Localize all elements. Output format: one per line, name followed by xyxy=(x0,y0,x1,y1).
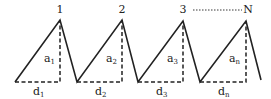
height-label-n: an xyxy=(229,52,241,66)
height-label-2: a2 xyxy=(106,52,117,66)
sawtooth-line xyxy=(15,20,261,82)
peak-label-1: 1 xyxy=(57,3,64,16)
base-label-3: d3 xyxy=(156,85,168,99)
peak-label-n: N xyxy=(243,3,253,16)
peak-label-3: 3 xyxy=(180,3,187,16)
base-label-1: d1 xyxy=(33,85,45,99)
sawtooth-diagram: 1 2 3 N a1 a2 a3 an d1 d2 d3 dn xyxy=(0,0,271,99)
base-label-2: d2 xyxy=(95,85,107,99)
peak-label-2: 2 xyxy=(119,3,126,16)
height-label-3: a3 xyxy=(167,52,178,66)
base-label-n: dn xyxy=(218,85,230,99)
height-label-1: a1 xyxy=(44,52,55,66)
